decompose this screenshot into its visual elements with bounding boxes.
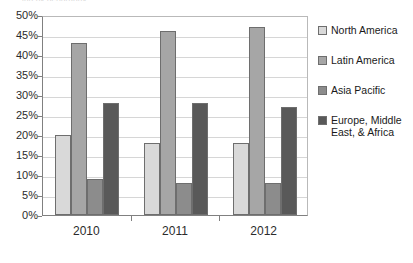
cropped-title-text: ing by geography xyxy=(22,0,87,1)
bar-group xyxy=(132,17,221,215)
legend-item[interactable]: Asia Pacific xyxy=(318,84,413,96)
bar xyxy=(265,183,281,215)
bar xyxy=(55,135,71,215)
bar xyxy=(249,27,265,215)
bar xyxy=(233,143,249,215)
chart-legend: North AmericaLatin AmericaAsia PacificEu… xyxy=(318,24,413,156)
y-axis-tick-mark xyxy=(37,216,42,217)
y-axis-ticks xyxy=(0,16,42,216)
legend-item[interactable]: North America xyxy=(318,24,413,36)
bar xyxy=(144,143,160,215)
x-axis-labels: 201020112012 xyxy=(42,224,308,244)
bar xyxy=(160,31,176,215)
legend-swatch-icon xyxy=(318,86,327,95)
legend-item-label: Europe, Middle East, & Africa xyxy=(331,114,402,138)
x-axis-tick-label: 2012 xyxy=(219,224,308,238)
bar-chart: ing by geography 0%5%10%15%20%25%30%35%4… xyxy=(0,0,413,263)
x-axis-tick-mark xyxy=(131,216,132,221)
bar xyxy=(103,103,119,215)
bar xyxy=(192,103,208,215)
legend-swatch-icon xyxy=(318,56,327,65)
legend-item-label: Latin America xyxy=(331,54,395,66)
bar xyxy=(281,107,297,215)
x-axis-tick-label: 2011 xyxy=(131,224,220,238)
legend-swatch-icon xyxy=(318,26,327,35)
legend-swatch-icon xyxy=(318,116,327,125)
legend-item[interactable]: Europe, Middle East, & Africa xyxy=(318,114,413,138)
legend-item-label: North America xyxy=(331,24,398,36)
bar xyxy=(71,43,87,215)
x-axis-tick-mark xyxy=(219,216,220,221)
legend-item[interactable]: Latin America xyxy=(318,54,413,66)
x-axis-tick-label: 2010 xyxy=(42,224,131,238)
bar xyxy=(87,179,103,215)
bar xyxy=(176,183,192,215)
plot-area xyxy=(42,16,308,216)
bar-group xyxy=(43,17,132,215)
legend-item-label: Asia Pacific xyxy=(331,84,385,96)
bar-group xyxy=(220,17,309,215)
